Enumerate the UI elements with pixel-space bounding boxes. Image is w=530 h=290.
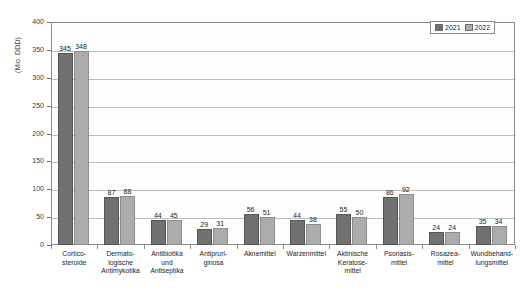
y-tick-label: 400	[18, 18, 44, 25]
y-tick-label: 300	[18, 74, 44, 81]
bar-value-label: 92	[393, 186, 419, 193]
y-tick-label: 150	[18, 157, 44, 164]
bar-group: 3534	[469, 22, 515, 245]
bar-2021[interactable]	[383, 197, 398, 245]
x-category-label-line: ginosa	[185, 259, 241, 268]
bar-group: 4445	[144, 22, 190, 245]
bar-2021[interactable]	[476, 226, 491, 246]
bar-value-label: 31	[207, 220, 233, 227]
bar-group: 5651	[237, 22, 283, 245]
bar-2021[interactable]	[290, 220, 305, 245]
x-category-label: Wundbehand-lungsmittel	[464, 250, 520, 267]
x-category-label-line: Wundbehand-	[464, 250, 520, 259]
bar-chart: (Mio. DDD) 050100150200250300350400 3453…	[0, 0, 530, 290]
x-tick-mark	[190, 245, 191, 249]
x-tick-mark	[283, 245, 284, 249]
bar-2021[interactable]	[244, 214, 259, 245]
legend-swatch-icon	[435, 24, 443, 31]
bar-2022[interactable]	[352, 217, 367, 245]
legend-entry[interactable]: 2021	[435, 24, 461, 31]
bar-group: 2931	[190, 22, 236, 245]
bar-group: 5550	[329, 22, 375, 245]
bar-2022[interactable]	[306, 224, 321, 245]
bar-group: 2424	[422, 22, 468, 245]
bar-value-label: 88	[114, 188, 140, 195]
bar-group: 8692	[376, 22, 422, 245]
bars-layer: 3453488788444529315651443855508692242435…	[51, 22, 515, 245]
y-tick-label: 350	[18, 46, 44, 53]
y-tick-label: 200	[18, 130, 44, 137]
x-tick-mark	[376, 245, 377, 249]
x-tick-mark	[97, 245, 98, 249]
x-category-label-line: mittel	[325, 267, 381, 276]
bar-2021[interactable]	[58, 53, 73, 245]
x-tick-mark	[515, 245, 516, 249]
x-tick-mark	[144, 245, 145, 249]
bar-2022[interactable]	[167, 220, 182, 245]
bar-value-label: 34	[486, 218, 512, 225]
legend-swatch-icon	[465, 24, 473, 31]
y-tick-label: 100	[18, 185, 44, 192]
bar-value-label: 348	[68, 43, 94, 50]
bar-2022[interactable]	[213, 228, 228, 245]
bar-group: 8788	[97, 22, 143, 245]
bar-value-label: 24	[439, 224, 465, 231]
bar-2022[interactable]	[260, 217, 275, 245]
bar-value-label: 50	[346, 209, 372, 216]
y-tick-label: 0	[18, 241, 44, 248]
legend-label: 2021	[445, 24, 461, 31]
legend-label: 2022	[475, 24, 491, 31]
x-tick-mark	[237, 245, 238, 249]
bar-2021[interactable]	[197, 229, 212, 245]
bar-group: 4438	[283, 22, 329, 245]
x-tick-mark	[51, 245, 52, 249]
bar-value-label: 51	[254, 209, 280, 216]
bar-group: 345348	[51, 22, 97, 245]
bar-2021[interactable]	[429, 232, 444, 245]
bar-2021[interactable]	[151, 220, 166, 245]
x-tick-mark	[329, 245, 330, 249]
bar-value-label: 38	[300, 216, 326, 223]
bar-2021[interactable]	[104, 197, 119, 246]
bar-2022[interactable]	[399, 194, 414, 245]
bar-value-label: 45	[161, 212, 187, 219]
x-category-label-line: lungsmittel	[464, 259, 520, 268]
x-axis-category-labels: Cortico-steroideDermato-logischeAntimyko…	[51, 250, 515, 290]
bar-2022[interactable]	[492, 226, 507, 245]
y-tick-label: 50	[18, 213, 44, 220]
bar-2022[interactable]	[74, 51, 89, 245]
bar-2022[interactable]	[445, 232, 460, 245]
legend-entry[interactable]: 2022	[465, 24, 491, 31]
bar-2022[interactable]	[120, 196, 135, 245]
bar-2021[interactable]	[336, 214, 351, 245]
x-category-label-line: Antiseptika	[139, 267, 195, 276]
x-tick-mark	[469, 245, 470, 249]
y-tick-label: 250	[18, 102, 44, 109]
x-tick-mark	[422, 245, 423, 249]
legend[interactable]: 20212022	[430, 21, 495, 34]
